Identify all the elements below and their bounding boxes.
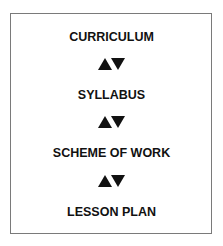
triangle-down-icon [111,58,125,70]
triangle-down-icon [111,116,125,128]
level-scheme-of-work: SCHEME OF WORK [0,146,223,160]
triangle-down-icon [111,175,125,187]
level-syllabus: SYLLABUS [0,88,223,102]
triangle-up-icon [98,175,112,187]
connector-scheme-lesson [0,174,223,188]
triangle-up-icon [98,58,112,70]
level-lesson-plan: LESSON PLAN [0,205,223,219]
level-curriculum: CURRICULUM [0,30,223,44]
connector-syllabus-scheme [0,115,223,129]
connector-curriculum-syllabus [0,57,223,71]
triangle-up-icon [98,116,112,128]
